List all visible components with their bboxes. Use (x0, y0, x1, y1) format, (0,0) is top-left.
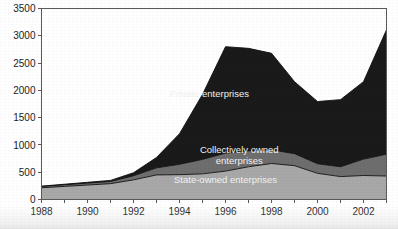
x-tick-label: 2000 (306, 206, 329, 217)
x-tick-label: 1998 (260, 206, 283, 217)
x-tick-label: 2002 (352, 206, 375, 217)
chart-canvas: 0500100015002000250030003500 19881990199… (0, 0, 398, 229)
x-axis-ticks: 19881990199219941996199820002002 (30, 200, 386, 218)
series-label-0: State-owned enterprises (174, 174, 277, 185)
y-tick-label: 3000 (13, 30, 36, 41)
x-tick-label: 1996 (214, 206, 237, 217)
y-tick-label: 0 (30, 194, 36, 205)
y-tick-label: 1000 (13, 140, 36, 151)
stacked-area-chart: 0500100015002000250030003500 19881990199… (0, 0, 398, 229)
y-tick-label: 2000 (13, 85, 36, 96)
x-tick-label: 1988 (30, 206, 53, 217)
x-tick-label: 1990 (76, 206, 99, 217)
y-tick-label: 500 (19, 167, 36, 178)
series-label-2: Private enterprises (170, 88, 249, 99)
y-tick-label: 2500 (13, 58, 36, 69)
x-tick-label: 1992 (122, 206, 145, 217)
x-tick-label: 1994 (168, 206, 191, 217)
y-tick-label: 3500 (13, 3, 36, 14)
y-axis-ticks: 0500100015002000250030003500 (13, 3, 41, 205)
y-tick-label: 1500 (13, 112, 36, 123)
